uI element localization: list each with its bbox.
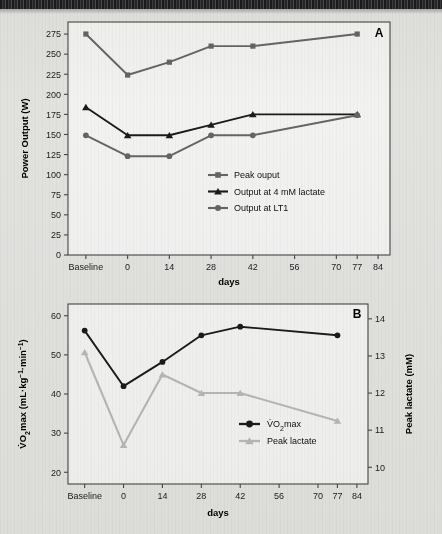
data-point — [125, 72, 130, 77]
panel-a: 0255075100125150175200225250275Baseline0… — [0, 12, 442, 290]
y-axis-title: Power Output (W) — [19, 98, 30, 178]
x-tick-label: 84 — [373, 262, 383, 272]
x-tick-label: 28 — [206, 262, 216, 272]
y-tick-label: 20 — [51, 468, 61, 478]
y-axis-title: V̇O2max (mL·kg−1·min−1) — [17, 339, 31, 448]
x-tick-label: 14 — [164, 262, 174, 272]
figure-container: 0255075100125150175200225250275Baseline0… — [0, 0, 442, 534]
data-point — [160, 359, 166, 365]
x-tick-label: 0 — [125, 262, 130, 272]
data-point — [250, 44, 255, 49]
y-axis-title-right-text: Peak lactate (mM) — [403, 354, 414, 434]
panel-b-plot: 20304050601011121314Baseline014284256707… — [0, 288, 442, 534]
y-tick-label: 25 — [51, 230, 61, 240]
legend-marker — [215, 205, 221, 211]
data-point — [83, 132, 89, 138]
y-tick-label: 60 — [51, 311, 61, 321]
panel-a-plot: 0255075100125150175200225250275Baseline0… — [0, 12, 442, 290]
data-point — [82, 328, 88, 334]
y-axis-right: 1011121314 — [368, 314, 385, 472]
data-point — [121, 383, 127, 389]
y-tick-label: 150 — [46, 130, 61, 140]
data-point — [125, 153, 131, 159]
data-point — [166, 153, 172, 159]
legend-label: Output at 4 mM lactate — [234, 187, 325, 197]
x-tick-label: Baseline — [69, 262, 104, 272]
y-axis-title-text: Power Output (W) — [19, 98, 30, 178]
data-point — [83, 31, 88, 36]
y-tick-label: 0 — [56, 250, 61, 260]
plot-area — [68, 22, 390, 255]
y-tick-label: 50 — [51, 350, 61, 360]
data-point — [208, 132, 214, 138]
x-tick-label: 56 — [274, 491, 284, 501]
legend-label: Peak lactate — [267, 436, 317, 446]
x-tick-label: 77 — [332, 491, 342, 501]
y-tick-label: 30 — [51, 428, 61, 438]
y-tick-label: 225 — [46, 70, 61, 80]
y-axis-title-right: Peak lactate (mM) — [403, 354, 414, 434]
y-tick-label: 75 — [51, 190, 61, 200]
x-axis-title: days — [207, 507, 229, 518]
y-tick-label-right: 10 — [375, 463, 385, 473]
y-tick-label: 275 — [46, 29, 61, 39]
y-axis-left: 0255075100125150175200225250275 — [46, 29, 68, 260]
x-tick-label: 14 — [157, 491, 167, 501]
x-tick-label: 0 — [121, 491, 126, 501]
y-axis-left: 2030405060 — [51, 311, 68, 478]
y-tick-label: 40 — [51, 389, 61, 399]
data-point — [198, 332, 204, 338]
y-tick-label: 125 — [46, 150, 61, 160]
x-tick-label: 42 — [248, 262, 258, 272]
scan-artifact-band — [0, 0, 442, 9]
panel-letter-a: A — [375, 26, 384, 40]
y-tick-label: 100 — [46, 170, 61, 180]
data-point — [167, 60, 172, 65]
x-axis-title: days — [218, 276, 240, 287]
y-tick-label: 175 — [46, 110, 61, 120]
x-axis: Baseline014284256707784 — [67, 484, 361, 501]
legend-label: Peak ouput — [234, 170, 280, 180]
y-tick-label-right: 13 — [375, 351, 385, 361]
x-tick-label: 56 — [290, 262, 300, 272]
panel-letter-b: B — [353, 307, 362, 321]
y-tick-label-right: 11 — [375, 425, 384, 435]
x-tick-label: 77 — [352, 262, 362, 272]
x-tick-label: Baseline — [67, 491, 102, 501]
y-tick-label: 50 — [51, 210, 61, 220]
data-point — [250, 132, 256, 138]
data-point — [355, 31, 360, 36]
x-axis: Baseline014284256707784 — [69, 255, 383, 272]
x-tick-label: 70 — [313, 491, 323, 501]
y-tick-label: 200 — [46, 90, 61, 100]
y-tick-label: 250 — [46, 49, 61, 59]
x-tick-label: 28 — [196, 491, 206, 501]
legend-marker — [215, 172, 221, 178]
data-point — [209, 44, 214, 49]
y-tick-label-right: 14 — [375, 314, 385, 324]
y-tick-label-right: 12 — [375, 388, 385, 398]
data-point — [354, 112, 360, 118]
y-axis-title-text: V̇O2max (mL·kg−1·min−1) — [17, 339, 31, 448]
x-tick-label: 70 — [331, 262, 341, 272]
legend-marker — [246, 421, 253, 428]
panel-b: 20304050601011121314Baseline014284256707… — [0, 288, 442, 534]
data-point — [237, 324, 243, 330]
x-tick-label: 84 — [352, 491, 362, 501]
x-tick-label: 42 — [235, 491, 245, 501]
legend-label: Output at LT1 — [234, 203, 288, 213]
data-point — [335, 332, 341, 338]
